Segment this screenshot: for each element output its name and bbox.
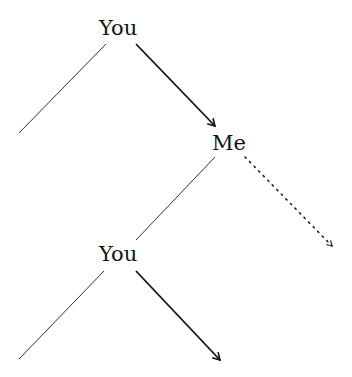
node-you-bottom: You [99,244,137,265]
edge-me-right-dotted-arrow [245,157,332,246]
edge-you-left-1 [19,44,106,133]
edge-me-to-you [136,157,215,240]
tree-edges [0,0,352,377]
edge-you-to-me-arrow [136,44,215,126]
node-you-top: You [99,18,137,39]
edge-you-right-arrow [136,271,220,360]
edge-you-left-2 [19,271,104,359]
game-tree-diagram: You Me You [0,0,352,377]
node-me: Me [212,133,246,154]
